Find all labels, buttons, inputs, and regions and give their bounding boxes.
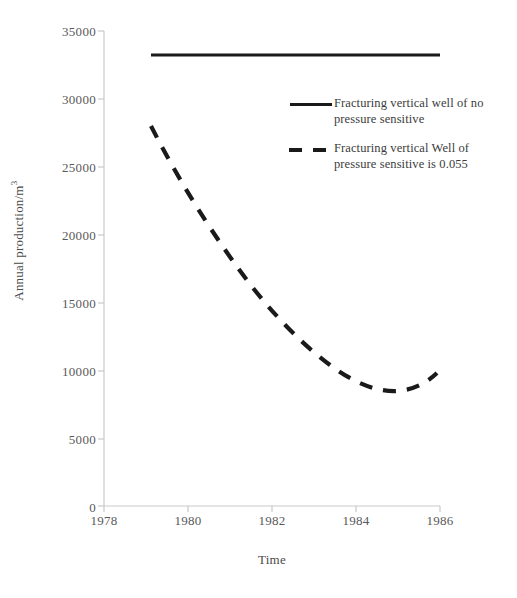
legend-solid-line-icon — [288, 98, 334, 112]
legend-entry: Fracturing vertical Well of pressure sen… — [288, 140, 513, 172]
chart-legend: Fracturing vertical well of no pressure … — [288, 95, 513, 185]
x-axis-ticks — [104, 506, 440, 512]
plot-area — [0, 0, 517, 598]
legend-entry: Fracturing vertical well of no pressure … — [288, 95, 513, 127]
y-axis-ticks — [98, 31, 104, 506]
chart-container: Annual production/m3 35000 30000 25000 2… — [0, 0, 517, 598]
legend-label: Fracturing vertical Well of pressure sen… — [334, 140, 513, 172]
legend-label: Fracturing vertical well of no pressure … — [334, 95, 513, 127]
legend-dashed-line-icon — [288, 143, 334, 157]
